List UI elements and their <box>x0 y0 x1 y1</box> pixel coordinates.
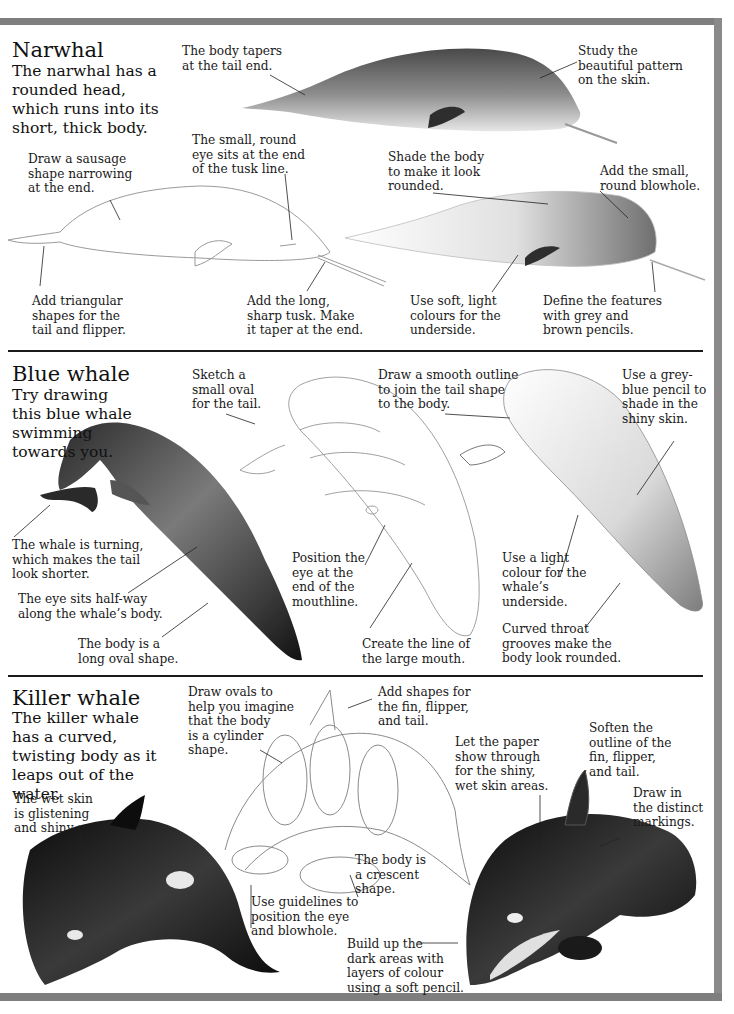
caption-grey-blue-pencil: Use a grey- blue pencil to shade in the … <box>622 368 706 426</box>
caption-add-shapes: Add shapes for the fin, flipper, and tai… <box>378 685 470 729</box>
caption-throat-grooves: Curved throat grooves make the body look… <box>502 622 621 666</box>
killer-whale-intro: The killer whale has a curved, twisting … <box>12 709 162 804</box>
killer-whale-title: Killer whale <box>12 686 140 710</box>
section-divider <box>8 675 703 677</box>
caption-soften-outline: Soften the outline of the fin, flipper, … <box>589 721 672 779</box>
narwhal-shaded-drawing <box>345 191 705 280</box>
caption-wet-skin: The wet skin is glistening and shiny. <box>14 792 93 836</box>
caption-position-eye: Position the eye at the end of the mouth… <box>292 551 365 609</box>
narwhal-illustration <box>242 49 617 143</box>
caption-soft-colours: Use soft, light colours for the undersid… <box>410 294 501 338</box>
blue-whale-intro: Try drawing this blue whale swimming tow… <box>12 386 137 462</box>
caption-small-round-eye: The small, round eye sits at the end of … <box>192 133 305 177</box>
caption-smooth-outline: Draw a smooth outline to join the tail s… <box>378 368 518 412</box>
caption-dark-areas: Build up the dark areas with layers of c… <box>347 937 464 995</box>
caption-body-tapers: The body tapers at the tail end. <box>182 44 282 73</box>
caption-guidelines: Use guidelines to position the eye and b… <box>251 895 358 939</box>
caption-define-features: Define the features with grey and brown … <box>543 294 662 338</box>
caption-light-colour: Use a light colour for the whale’s under… <box>502 551 586 609</box>
caption-sausage-shape: Draw a sausage shape narrowing at the en… <box>28 152 132 196</box>
narwhal-title: Narwhal <box>12 38 104 62</box>
caption-paper-show: Let the paper show through for the shiny… <box>455 735 548 793</box>
caption-shade-body: Shade the body to make it look rounded. <box>388 150 484 194</box>
caption-large-mouth: Create the line of the large mouth. <box>362 637 470 666</box>
narwhal-sketch <box>8 186 386 286</box>
narwhal-intro: The narwhal has a rounded head, which ru… <box>12 62 162 138</box>
caption-blowhole: Add the small, round blowhole. <box>600 164 700 193</box>
caption-sketch-oval: Sketch a small oval for the tail. <box>192 368 261 412</box>
caption-draw-ovals: Draw ovals to help you imagine that the … <box>188 685 294 758</box>
caption-study-pattern: Study the beautiful pattern on the skin. <box>578 44 683 88</box>
caption-long-tusk: Add the long, sharp tusk. Make it taper … <box>247 294 363 338</box>
caption-triangular-shapes: Add triangular shapes for the tail and f… <box>32 294 126 338</box>
caption-long-oval: The body is a long oval shape. <box>78 637 178 666</box>
caption-whale-turning: The whale is turning, which makes the ta… <box>12 538 143 582</box>
drawing-guide-page: Narwhal The narwhal has a rounded head, … <box>0 0 734 1014</box>
section-divider <box>8 350 703 352</box>
caption-crescent: The body is a crescent shape. <box>355 853 426 897</box>
caption-eye-halfway: The eye sits half-way along the whale’s … <box>18 592 163 621</box>
blue-whale-title: Blue whale <box>12 362 130 386</box>
caption-distinct-markings: Draw in the distinct markings. <box>633 786 703 830</box>
